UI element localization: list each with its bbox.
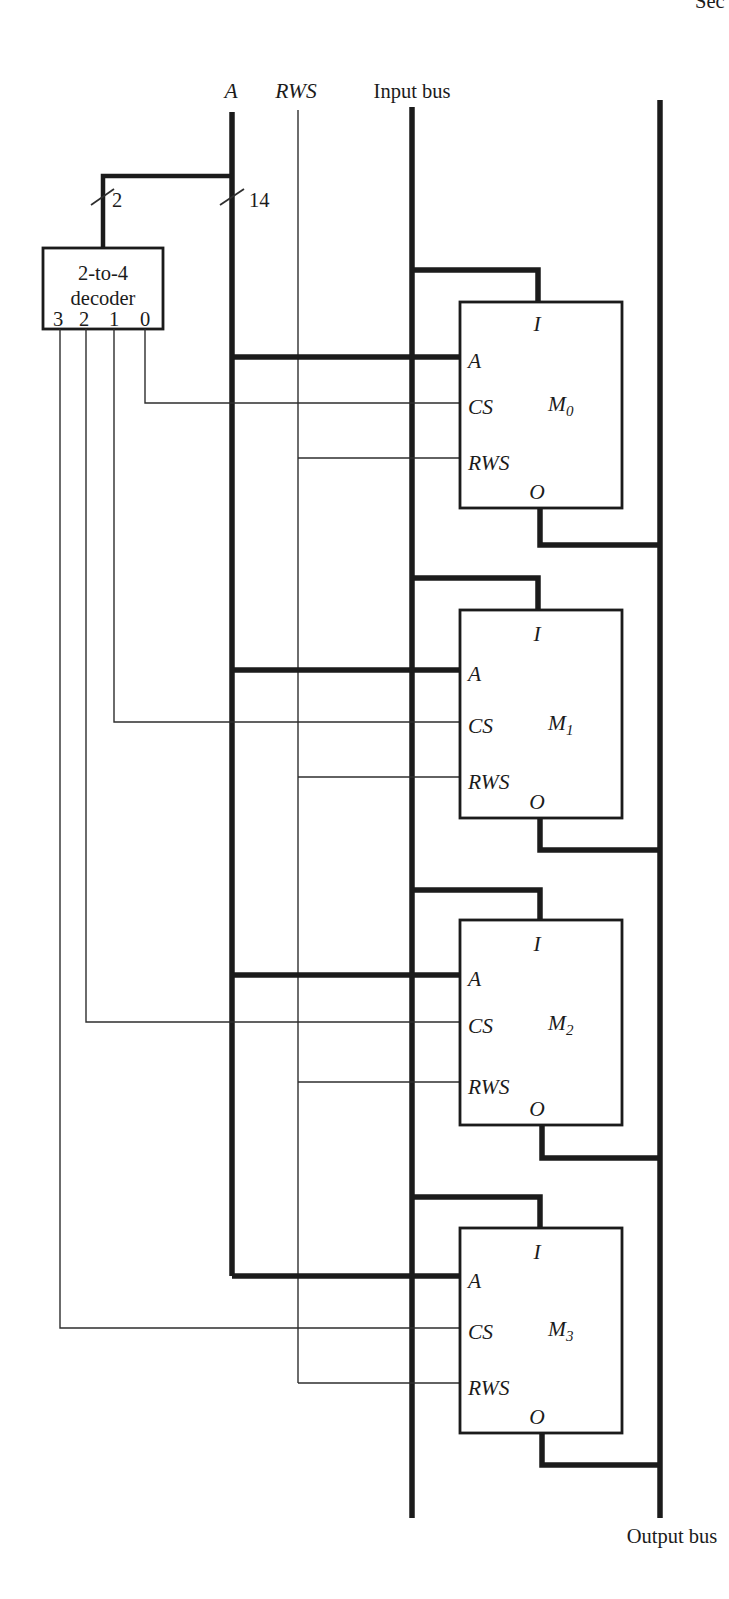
m3-output-wire <box>542 1433 660 1465</box>
m3-port-o-label: O <box>529 1405 545 1429</box>
m0-port-cs-label: CS <box>468 395 493 419</box>
memory-module-m3: I A CS M3 RWS O <box>232 1197 660 1465</box>
m1-input-branch-wire <box>412 578 538 612</box>
m0-port-a-label: A <box>466 349 482 373</box>
decoder-output-0-label: 0 <box>140 308 150 330</box>
decoder-title-line1: 2-to-4 <box>78 262 128 284</box>
decoder-title-line2: decoder <box>71 287 136 309</box>
m2-output-wire <box>542 1125 660 1158</box>
m1-output-wire <box>540 818 660 850</box>
decoder-out2-to-m2-cs-wire <box>86 329 460 1022</box>
memory-system-diagram: Sec A RWS Input bus 2 14 2-to-4 decoder … <box>0 0 729 1599</box>
memory-module-m0: I A CS M0 RWS O <box>232 270 660 545</box>
m0-port-i-label: I <box>532 312 541 336</box>
scanned-page: Sec A RWS Input bus 2 14 2-to-4 decoder … <box>0 0 729 1599</box>
decoder-out3-to-m3-cs-wire <box>60 329 460 1328</box>
m3-port-i-label: I <box>532 1240 541 1264</box>
decoder-feed-wire <box>103 176 232 248</box>
m2-port-cs-label: CS <box>468 1014 493 1038</box>
decoder-output-2-label: 2 <box>79 308 89 330</box>
m2-input-branch-wire <box>412 890 540 922</box>
bus-width-14-label: 14 <box>249 189 270 211</box>
memory-module-m1: I A CS M1 RWS O <box>232 578 660 850</box>
m2-port-rws-label: RWS <box>467 1075 510 1099</box>
address-bus-label: A <box>222 79 238 103</box>
m3-port-cs-label: CS <box>468 1320 493 1344</box>
decoder-output-3-label: 3 <box>53 308 63 330</box>
memory-module-m2: I A CS M2 RWS O <box>232 890 660 1158</box>
m3-port-a-label: A <box>466 1269 482 1293</box>
output-bus-label: Output bus <box>627 1525 718 1548</box>
bus-width-2-label: 2 <box>112 189 122 211</box>
m2-port-o-label: O <box>529 1097 545 1121</box>
m1-port-i-label: I <box>532 622 541 646</box>
m0-input-branch-wire <box>412 270 538 304</box>
rws-line-label: RWS <box>274 79 317 103</box>
decoder-out1-to-m1-cs-wire <box>114 329 460 722</box>
m2-port-i-label: I <box>532 932 541 956</box>
m3-input-branch-wire <box>412 1197 540 1230</box>
m1-port-a-label: A <box>466 662 482 686</box>
input-bus-label: Input bus <box>374 80 451 103</box>
m1-port-rws-label: RWS <box>467 770 510 794</box>
page-header-fragment: Sec <box>695 0 725 12</box>
m3-port-rws-label: RWS <box>467 1376 510 1400</box>
decoder-output-1-label: 1 <box>109 308 119 330</box>
m0-output-wire <box>540 508 660 545</box>
m1-port-o-label: O <box>529 790 545 814</box>
m2-port-a-label: A <box>466 967 482 991</box>
m0-port-o-label: O <box>529 480 545 504</box>
m1-port-cs-label: CS <box>468 714 493 738</box>
m0-port-rws-label: RWS <box>467 451 510 475</box>
